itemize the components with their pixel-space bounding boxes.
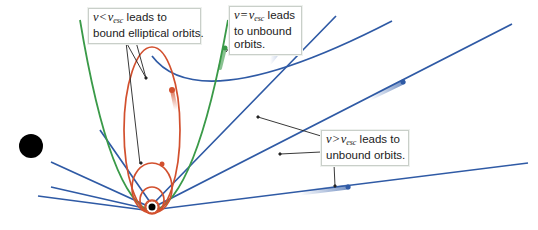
callout-bound-line1: v<vesc leads to	[93, 11, 196, 27]
callout-parabolic-line2: to unbound	[234, 25, 297, 38]
external-body	[19, 134, 43, 158]
parabola	[80, 20, 228, 212]
callout-hyperbolic-orbits: v>vesc leads to unbound orbits.	[321, 130, 409, 166]
motion-markers	[160, 32, 406, 194]
callout-parabolic-line1: v=vesc leads	[234, 9, 297, 25]
elliptical-orbits	[124, 47, 180, 214]
callout-hyper-line2: unbound orbits.	[326, 149, 404, 162]
central-planet	[146, 201, 158, 213]
callout-parabolic-orbit: v=vesc leads to unbound orbits.	[229, 6, 302, 55]
callout-bound-orbits: v<vesc leads to bound elliptical orbits.	[88, 8, 201, 44]
callout-bound-line2: bound elliptical orbits.	[93, 27, 196, 40]
callout-parabolic-line3: orbits.	[234, 38, 297, 51]
callout-hyper-line1: v>vesc leads to	[326, 133, 404, 149]
